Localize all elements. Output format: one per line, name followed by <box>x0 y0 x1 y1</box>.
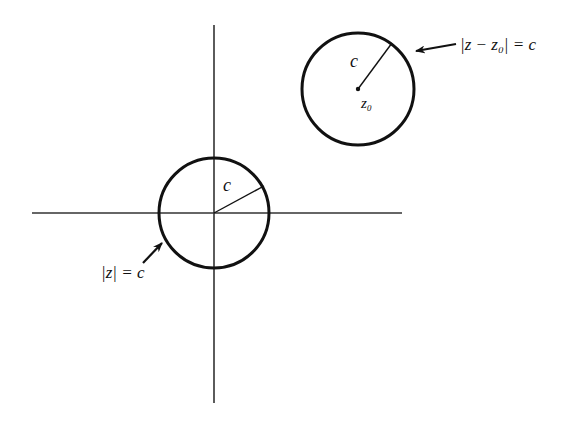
complex-plane-diagram <box>0 0 563 427</box>
origin-circle-arrow <box>143 243 162 263</box>
shifted-circle-equation-label: |z − z₀| = c <box>460 36 536 53</box>
center-point-z0 <box>356 87 360 91</box>
shifted-circle-arrow <box>416 44 456 51</box>
origin-circle-radius-label: c <box>223 176 231 194</box>
shifted-circle-radius-label: c <box>350 52 358 70</box>
origin-circle-equation-label: |z| = c <box>101 264 144 281</box>
origin-circle-radius <box>214 186 264 213</box>
shifted-circle-radius <box>358 43 392 89</box>
shifted-circle-center-label: z₀ <box>361 96 372 111</box>
